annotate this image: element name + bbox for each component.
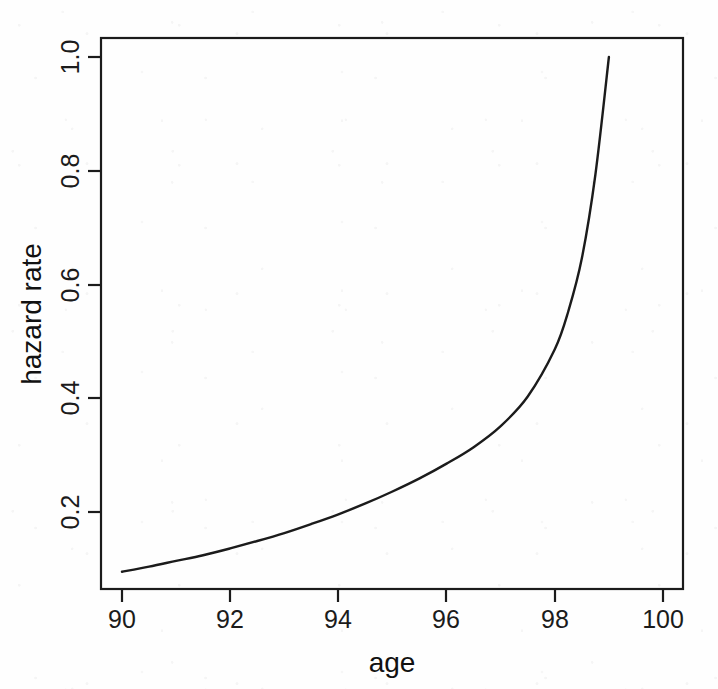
x-tick-label-94: 94 bbox=[324, 605, 352, 633]
y-tick-label-0.4: 0.4 bbox=[56, 381, 84, 416]
figure-canvas: 90 92 94 96 98 100 0.2 0.4 0.6 0.8 1.0 a… bbox=[0, 0, 718, 689]
x-tick-label-96: 96 bbox=[432, 605, 460, 633]
y-axis-title: hazard rate bbox=[16, 243, 47, 385]
y-tick-label-0.2: 0.2 bbox=[56, 495, 84, 530]
x-tick-label-92: 92 bbox=[216, 605, 244, 633]
y-axis-tick-labels: 0.2 0.4 0.6 0.8 1.0 bbox=[56, 40, 84, 530]
x-tick-label-90: 90 bbox=[108, 605, 136, 633]
x-axis-tick-labels: 90 92 94 96 98 100 bbox=[108, 605, 684, 633]
hazard-rate-line-chart: 90 92 94 96 98 100 0.2 0.4 0.6 0.8 1.0 a… bbox=[0, 0, 718, 689]
x-axis-title: age bbox=[369, 647, 416, 678]
plot-box-border bbox=[101, 38, 683, 589]
y-axis-ticks bbox=[88, 57, 101, 512]
y-tick-label-0.6: 0.6 bbox=[56, 268, 84, 303]
x-axis-ticks bbox=[122, 589, 663, 602]
x-tick-label-98: 98 bbox=[541, 605, 569, 633]
y-tick-label-1.0: 1.0 bbox=[56, 40, 84, 75]
y-tick-label-0.8: 0.8 bbox=[56, 154, 84, 189]
hazard-rate-curve bbox=[122, 57, 609, 572]
x-tick-label-100: 100 bbox=[642, 605, 684, 633]
